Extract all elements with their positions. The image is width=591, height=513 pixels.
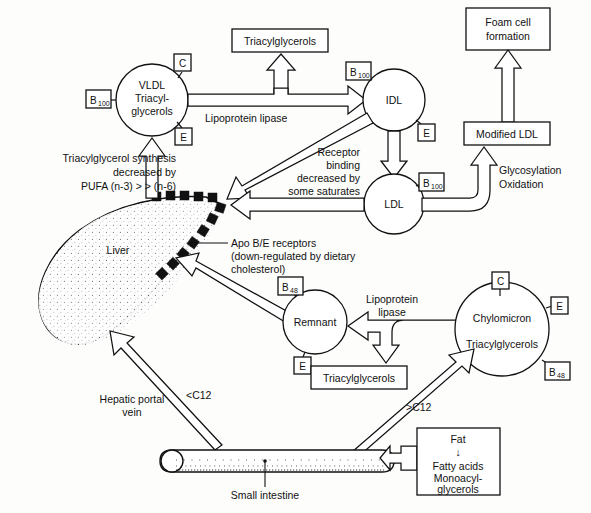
apo-ldl-b100-main: B [423,178,430,189]
box-triacylglycerols-top: Triacylglycerols [232,29,328,52]
chylomicron-line2: Triacylglycerols [466,338,538,350]
receptor-binding-line4: some saturates [288,185,360,197]
apo-ldl-b100-sub: 100 [431,183,443,190]
apo-be-line2: (down-regulated by dietary [231,250,356,262]
apo-remnant-e-main: E [299,361,306,372]
node-remnant[interactable]: Remnant [283,290,347,354]
remnant-label: Remnant [294,316,337,328]
apo-remnant-b48-sub: 48 [290,287,298,294]
lipoprotein-lipase-bottom-line2: lipase [378,306,406,318]
arrow-idl-to-ldl [381,131,407,178]
hepatic-portal-line2: vein [122,406,141,418]
node-vldl[interactable]: VLDL Triacyl- glycerols [116,64,188,136]
apo-vldl-b100: B 100 [86,90,116,108]
apo-chylo-b48-sub: 48 [557,372,565,379]
diagram-canvas: Liver VLDL Triacyl- glycerols C B 100 [0,0,591,513]
fat-line1: Fat [450,433,465,445]
apo-vldl-b100-main: B [90,95,97,106]
fat-line2: Fatty acids [433,460,484,472]
box-triacylglycerols-mid: Triacylglycerols [311,366,407,389]
idl-label: IDL [386,94,403,106]
receptor-binding-line1: Receptor [317,146,360,158]
foam-cell-line1: Foam cell [485,16,531,28]
apo-idl-b100: B 100 [346,62,372,80]
receptor-binding-line3: decreased by [297,172,361,184]
small-intestine-label: Small intestine [231,489,299,501]
glycosylation-line1: Glycosylation [499,164,562,176]
receptor-binding-line2: binding [326,159,360,171]
arrow-chylomicron-to-remnant [348,312,456,363]
hepatic-portal-line1: Hepatic portal [100,393,165,405]
apo-vldl-c-main: C [179,58,186,69]
lipoprotein-lipase-top-label: Lipoprotein lipase [205,112,287,124]
apo-ldl-b100: B 100 [416,173,444,191]
small-intestine-tube: Small intestine [160,450,394,501]
tag-synthesis-line1: Triacylglycerol synthesis [63,152,176,164]
tag-mid-label: Triacylglycerols [323,372,395,384]
tag-synthesis-line3: PUFA (n-3) > > (n-6) [81,180,176,192]
liver-label: Liver [107,244,130,256]
apo-vldl-e-main: E [180,132,187,143]
gt-c12-label: >C12 [406,401,432,413]
node-ldl[interactable]: LDL [364,174,424,234]
vldl-line1: VLDL [139,79,165,91]
apo-idl-b100-main: B [350,67,357,78]
apo-chylo-e: E [546,297,568,314]
lipoprotein-metabolism-diagram: Liver VLDL Triacyl- glycerols C B 100 [0,0,591,513]
tag-synthesis-line2: decreased by [113,166,177,178]
tag-top-label: Triacylglycerols [244,35,316,47]
lipoprotein-lipase-bottom-line1: Lipoprotein [366,293,418,305]
apo-be-line1: Apo B/E receptors [231,237,316,249]
box-modified-ldl: Modified LDL [464,122,550,145]
box-foam-cell: Foam cell formation [466,8,550,50]
fat-arrow-glyph: ↓ [455,446,460,458]
fat-line4: glycerols [437,483,478,495]
apo-remnant-b48: B 48 [278,277,303,296]
apo-chylo-b48: B 48 [542,360,570,380]
vldl-line3: glycerols [131,105,172,117]
apo-remnant-b48-main: B [282,282,289,293]
apo-be-line3: cholesterol) [231,263,285,275]
apo-chylo-c-main: C [497,276,504,287]
chylomicron-line1: Chylomicron [473,312,532,324]
apo-chylo-b48-main: B [549,367,556,378]
vldl-line2: Triacyl- [135,92,170,104]
foam-cell-line2: formation [486,30,530,42]
apo-idl-e: E [416,120,435,141]
ldl-label: LDL [384,198,403,210]
flow-vldl-to-idl [188,86,366,114]
arrow-to-foam-cell [495,50,521,122]
lt-c12-label: <C12 [186,389,212,401]
apo-chylo-e-main: E [556,301,563,312]
glycosylation-line2: Oxidation [499,178,544,190]
apo-remnant-e: E [294,352,311,374]
apo-vldl-b100-sub: 100 [98,100,110,107]
apo-idl-e-main: E [423,128,430,139]
apo-idl-b100-sub: 100 [358,72,370,79]
box-fat: Fat ↓ Fatty acids Monoacyl- glycerols [417,428,500,495]
modified-ldl-label: Modified LDL [476,128,538,140]
